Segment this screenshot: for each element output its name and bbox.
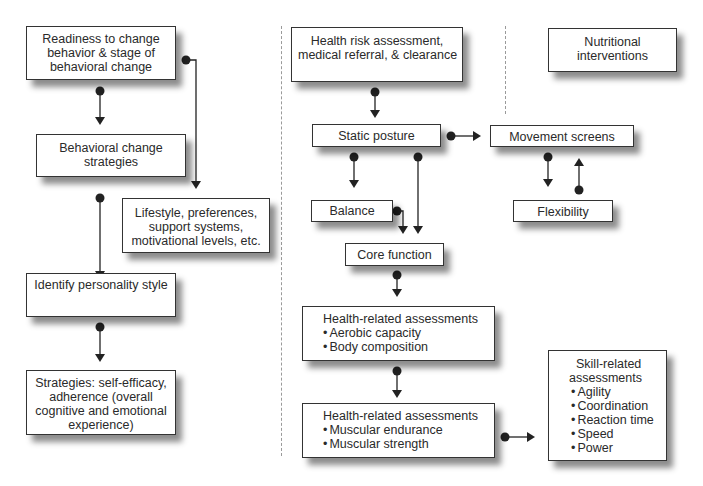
readiness-to-change-box: Readiness to change behavior & stage of … — [26, 26, 176, 80]
box-title: Health-related assessments — [323, 312, 474, 326]
box-text: behavior & stage of — [33, 46, 169, 60]
box-text: Nutritional — [555, 35, 670, 49]
box-title: Skill-related — [571, 357, 662, 371]
box-text: Lifestyle, preferences, — [129, 206, 263, 220]
box-text: cognitive and emotional — [33, 404, 169, 418]
lifestyle-preferences-box: Lifestyle, preferences, support systems,… — [122, 198, 270, 253]
strategies-self-efficacy-box: Strategies: self-efficacy, adherence (ov… — [26, 370, 176, 435]
health-related-assessments-muscular-box: Health-related assessments Muscular endu… — [302, 403, 495, 458]
health-risk-assessment-box: Health risk assessment, medical referral… — [291, 27, 463, 82]
bullet-item: Agility — [571, 385, 662, 399]
bullet-item: Reaction time — [571, 413, 662, 427]
static-posture-box: Static posture — [312, 124, 441, 147]
bullet-item: Body composition — [323, 340, 474, 354]
box-title: Health-related assessments — [323, 409, 474, 423]
flexibility-box: Flexibility — [513, 200, 613, 222]
bullet-item: Coordination — [571, 399, 662, 413]
box-title: assessments — [569, 371, 662, 385]
skill-related-assessments-box: Skill-related assessments Agility Coordi… — [548, 350, 667, 461]
identify-personality-style-box: Identify personality style — [26, 273, 176, 317]
box-text: Static posture — [319, 129, 434, 143]
box-text: interventions — [555, 49, 670, 63]
health-related-assessments-aerobic-box: Health-related assessments Aerobic capac… — [302, 306, 495, 361]
box-text: adherence (overall — [33, 390, 169, 404]
balance-box: Balance — [311, 200, 393, 222]
box-text: Readiness to change — [33, 32, 169, 46]
bullet-item: Muscular endurance — [323, 423, 474, 437]
box-text: Flexibility — [520, 205, 606, 219]
box-text: support systems, — [129, 220, 263, 234]
box-text: Movement screens — [497, 130, 627, 144]
box-text: Strategies: self-efficacy, — [33, 376, 169, 390]
bullet-item: Speed — [571, 427, 662, 441]
bullet-item: Muscular strength — [323, 437, 474, 451]
core-function-box: Core function — [345, 243, 444, 266]
box-text: medical referral, & clearance — [298, 48, 456, 62]
behavioral-change-strategies-box: Behavioral change strategies — [36, 134, 186, 177]
movement-screens-box: Movement screens — [490, 125, 634, 147]
box-text: Core function — [352, 248, 437, 262]
box-text: experience) — [33, 418, 169, 432]
box-text: strategies — [43, 155, 179, 169]
bullet-item: Aerobic capacity — [323, 326, 474, 340]
box-text: Identify personality style — [33, 278, 169, 292]
box-text: motivational levels, etc. — [129, 234, 263, 248]
box-text: Balance — [318, 204, 386, 218]
bullet-item: Power — [571, 441, 662, 455]
box-text: Behavioral change — [43, 141, 179, 155]
box-text: Health risk assessment, — [298, 34, 456, 48]
box-text: behavioral change — [33, 60, 169, 74]
nutritional-interventions-box: Nutritional interventions — [548, 28, 677, 72]
